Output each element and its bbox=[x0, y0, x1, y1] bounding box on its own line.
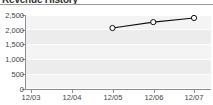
data-point-marker[interactable] bbox=[191, 15, 196, 20]
series-markers-revenue bbox=[110, 15, 197, 30]
revenue-history-chart-widget: Revenue History 2,500 2,000 1,500 1,000 … bbox=[0, 0, 213, 105]
data-point-marker[interactable] bbox=[151, 20, 156, 25]
series-layer bbox=[0, 0, 213, 105]
data-point-marker[interactable] bbox=[110, 25, 115, 30]
